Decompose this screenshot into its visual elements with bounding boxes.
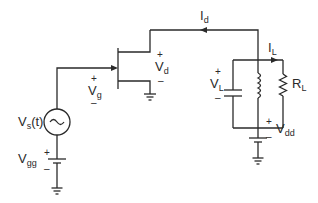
vl-minus-label: – — [215, 92, 221, 103]
source-label: Vs(t) — [18, 114, 43, 131]
ground-icon — [253, 158, 264, 164]
vd-label: Vd — [155, 59, 169, 76]
gate-arrow-icon — [111, 65, 118, 71]
tank-circuit — [224, 57, 287, 128]
ground-icon — [52, 188, 63, 194]
capacitor-icon — [224, 60, 242, 128]
circuit-diagram: Vs(t) + Vgg – + Vg – + Vd – Id IL + VL –… — [0, 0, 318, 203]
vgg-minus-label: – — [44, 163, 50, 174]
ground-icon — [144, 94, 156, 100]
drain-current-arrow-icon — [200, 27, 207, 33]
id-label: Id — [200, 8, 209, 25]
drain-wire — [150, 27, 258, 60]
vgg-label: Vgg — [18, 151, 37, 168]
inductor-icon — [258, 60, 261, 128]
vgg-plus-label: + — [44, 147, 50, 158]
load-current-arrow-icon — [271, 57, 278, 63]
rl-label: RL — [292, 76, 306, 93]
vdd-minus-label: – — [266, 131, 272, 142]
vdd-plus-label: + — [266, 116, 272, 127]
vgg-battery-icon — [48, 159, 66, 188]
vdd-battery-icon — [249, 128, 267, 158]
vg-minus-label: – — [91, 97, 97, 108]
fet-transistor — [118, 30, 150, 94]
resistor-icon — [280, 60, 287, 128]
vl-label: VL — [210, 76, 224, 93]
il-label: IL — [268, 40, 277, 57]
vd-minus-label: – — [158, 75, 164, 86]
vdd-label: Vdd — [276, 121, 295, 138]
